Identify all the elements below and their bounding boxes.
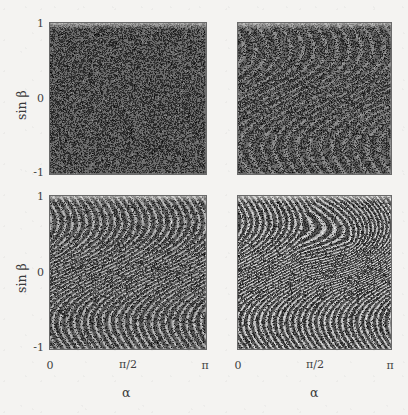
scatter-canvas-bottom-right [238, 196, 391, 349]
xlabel-left: α [122, 385, 130, 400]
ytick-bottom-minus1: -1 [18, 342, 44, 353]
xtick-right-0: 0 [226, 360, 250, 371]
panel-bottom-right [237, 195, 392, 350]
xtick-left-0: 0 [38, 360, 62, 371]
xtick-left-pi-over-2: π/2 [112, 359, 144, 370]
ytick-top-1: 1 [22, 18, 44, 29]
panel-top-left [49, 22, 207, 175]
panel-bottom-left [49, 195, 207, 350]
ytick-bottom-1: 1 [22, 191, 44, 202]
scatter-canvas-top-right [238, 23, 391, 174]
xlabel-right: α [310, 385, 318, 400]
xtick-right-pi-over-2: π/2 [299, 359, 331, 370]
ylabel-row-top: sin β [14, 90, 29, 120]
figure-root: 1 0 -1 sin β 1 0 -1 sin β 0 π/2 π α 0 π/… [0, 0, 408, 415]
scatter-canvas-top-left [50, 23, 206, 174]
panel-top-right [237, 22, 392, 175]
xtick-right-pi: π [378, 360, 402, 371]
ylabel-row-bottom: sin β [14, 263, 29, 293]
ytick-top-minus1: -1 [18, 167, 44, 178]
scatter-canvas-bottom-left [50, 196, 206, 349]
xtick-left-pi: π [193, 360, 217, 371]
